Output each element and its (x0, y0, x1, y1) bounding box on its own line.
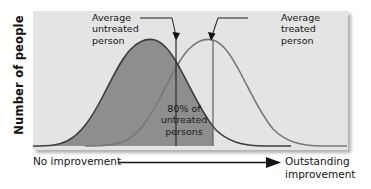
x-axis-end-label: Outstanding improvement (285, 155, 355, 180)
annotation-80-percent-untreated: 80% of untreated persons (150, 103, 218, 137)
x-axis-start-label: No improvement (33, 155, 121, 168)
annotation-average-treated-person: Average treated person (281, 12, 320, 46)
treated-arrowhead (208, 32, 216, 41)
annotation-average-untreated-person: Average untreated person (92, 12, 139, 46)
figure-container: Number of people (0, 0, 371, 189)
untreated-arrowhead (173, 32, 181, 41)
x-axis-direction-arrow (118, 156, 284, 170)
